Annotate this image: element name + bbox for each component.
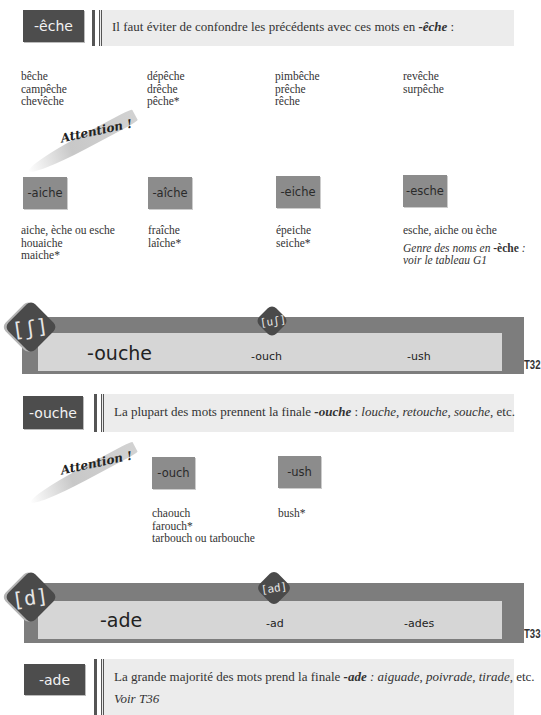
banner-t33: [d] [ad] -ade -ad -ades T33 [0, 565, 541, 645]
word: maiche* [21, 249, 115, 262]
word: chevêche [21, 95, 67, 108]
attention-badge: Attention ! [20, 118, 140, 170]
ending-tag-aiche: -aiche [23, 177, 67, 209]
word: bêche [21, 70, 67, 83]
note-suffix: etc. [497, 404, 515, 419]
note-suffix: : [447, 19, 454, 34]
banner-t32: [ʃ] [uʃ] -ouche -ouch -ush T32 [0, 300, 541, 375]
alt-ending: -ouch [251, 350, 282, 363]
word: surpêche [403, 83, 444, 96]
word: épeiche [276, 224, 311, 237]
word: seiche* [276, 237, 311, 250]
note-ending: -êche [418, 19, 447, 34]
word: aiche, èche ou esche [21, 224, 115, 237]
note-ending: -ade [344, 669, 367, 684]
see-also: Voir T36 [114, 691, 514, 707]
word-list-col-4: revêche surpêche [403, 70, 444, 95]
genre-note-suffix: : [519, 242, 526, 254]
exception-words-aiche: aiche, èche ou esche houaiche maiche* [21, 224, 115, 262]
exception-words-eiche: épeiche seiche* [276, 224, 311, 249]
ending-tag-aiche-circumflex: -aîche [148, 177, 192, 209]
ending-tag-ouche: -ouche [23, 396, 83, 429]
word: pêche* [147, 95, 185, 108]
note-eche: Il faut éviter de confondre les précéden… [99, 10, 514, 46]
example: souche [454, 404, 490, 419]
word: bush* [278, 507, 305, 520]
word: laîche* [148, 237, 181, 250]
note-middle: : [351, 404, 361, 419]
note-middle: : [367, 669, 378, 684]
word-list-col-1: bêche campêche chevêche [21, 70, 67, 108]
note-ouche: La plupart des mots prennent la finale -… [101, 394, 514, 432]
genre-note-text: Genre des noms en [403, 242, 493, 254]
exception-words-esche: esche, aiche ou èche Genre des noms en -… [403, 224, 526, 267]
ending-tag-ush: -ush [278, 456, 321, 488]
example: retouche [402, 404, 447, 419]
word: houaiche [21, 237, 115, 250]
phoneme-secondary: [ad] [257, 573, 290, 603]
main-ending: -ade [100, 609, 142, 631]
word: farouch* [152, 520, 255, 533]
phoneme-main: [ʃ] [8, 307, 53, 348]
word: campêche [21, 83, 67, 96]
main-ending: -ouche [87, 342, 152, 364]
note-ade: La grande majorité des mots prend la fin… [101, 659, 514, 715]
word: rêche [275, 95, 320, 108]
note-text: La grande majorité des mots prend la fin… [114, 669, 344, 684]
phoneme-secondary: [uʃ] [256, 307, 289, 335]
ending-tag-esche: -esche [403, 175, 447, 207]
example: tirade [479, 669, 510, 684]
word: drêche [147, 83, 185, 96]
alt-ending: -ades [404, 617, 434, 630]
exception-words-aiche-circumflex: fraîche laîche* [148, 224, 181, 249]
alt-ending: -ush [407, 350, 431, 363]
genre-note-ref: voir le tableau G1 [403, 254, 526, 267]
word: prêche [275, 83, 320, 96]
word: revêche [403, 70, 444, 83]
ending-tag-eiche: -eiche [276, 176, 320, 208]
ending-tag-ouch: -ouch [152, 457, 195, 489]
note-suffix: etc. [516, 669, 534, 684]
genre-note-ending: -èche [493, 242, 519, 254]
word: esche, aiche ou èche [403, 224, 526, 237]
word: dépêche [147, 70, 185, 83]
ending-tag-ade: -ade [24, 664, 85, 695]
example: poivrade [426, 669, 472, 684]
word: fraîche [148, 224, 181, 237]
table-code: T32 [524, 358, 541, 372]
word: tarbouch ou tarbouche [152, 532, 255, 545]
word: pimbêche [275, 70, 320, 83]
note-text: Il faut éviter de confondre les précéden… [112, 19, 418, 34]
table-code: T33 [524, 627, 541, 641]
note-text: La plupart des mots prennent la finale [114, 404, 314, 419]
attention-badge: Attention ! [22, 450, 142, 502]
phoneme-main: [d] [8, 576, 53, 619]
word: chaouch [152, 507, 255, 520]
word-list-col-2: dépêche drêche pêche* [147, 70, 185, 108]
alt-ending: -ad [266, 617, 284, 630]
example: louche [361, 404, 396, 419]
note-ending: -ouche [314, 404, 351, 419]
genre-note: Genre des noms en -èche : [403, 242, 526, 255]
exception-words-ush: bush* [278, 507, 305, 520]
example: aiguade [378, 669, 420, 684]
word-list-col-3: pimbêche prêche rêche [275, 70, 320, 108]
exception-words-ouch: chaouch farouch* tarbouch ou tarbouche [152, 507, 255, 545]
ending-tag-eche: -êche [23, 10, 84, 42]
